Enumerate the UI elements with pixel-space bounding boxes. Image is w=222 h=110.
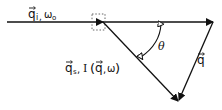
transfer-vector-line [179, 22, 213, 100]
svg-text:q: q [197, 53, 205, 67]
svg-text:q: q [95, 61, 103, 75]
svg-text:): ) [115, 61, 120, 76]
svg-text:,: , [103, 64, 106, 75]
svg-text:,: , [39, 12, 42, 22]
svg-text:I: I [83, 62, 87, 75]
incident-label: q i , ω o [28, 7, 56, 23]
transfer-label: q [197, 53, 205, 68]
scattering-diagram: q i , ω o q s , I ( q , ω ) q θ [0, 0, 222, 110]
svg-text:,: , [77, 64, 80, 75]
svg-text:q: q [65, 61, 73, 75]
svg-text:q: q [28, 7, 36, 21]
svg-text:i: i [36, 13, 38, 22]
svg-text:o: o [52, 14, 56, 22]
scattered-label: q s , I ( q , ω ) [65, 61, 120, 77]
angle-label: θ [158, 40, 165, 53]
